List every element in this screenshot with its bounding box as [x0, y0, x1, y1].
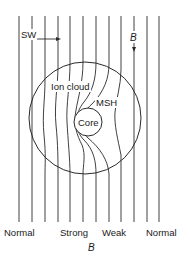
- bottom-label-strong: Strong: [60, 227, 88, 238]
- field-line-9: [115, 16, 121, 222]
- field-line-3: [43, 16, 45, 222]
- bottom-label-normal-right: Normal: [146, 227, 177, 238]
- field-direction-arrow-icon: [132, 47, 136, 52]
- ion-cloud-label: Ion cloud: [51, 81, 90, 92]
- field-bottom-label: B: [88, 242, 95, 253]
- core-label: Core: [78, 117, 99, 128]
- bottom-label-normal-left: Normal: [4, 227, 35, 238]
- solar-wind-label: SW: [21, 29, 36, 40]
- magnetosheath-label: MSH: [96, 97, 117, 108]
- field-line-5: [67, 16, 70, 222]
- bottom-label-weak: Weak: [102, 227, 126, 238]
- solar-wind-arrow-icon: [56, 37, 61, 41]
- field-draping-diagram: SW B Ion cloud MSH Core Normal Strong We…: [0, 0, 190, 267]
- field-top-label: B: [130, 32, 137, 43]
- field-line-4: [55, 16, 58, 222]
